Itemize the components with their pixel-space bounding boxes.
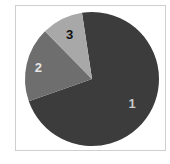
pie-slices	[25, 12, 159, 146]
pie-label-1: 1	[129, 96, 136, 111]
pie-label-3: 3	[66, 27, 73, 42]
pie-label-2: 2	[35, 60, 42, 75]
pie-chart: 123	[0, 0, 170, 164]
chart-canvas: 123	[0, 0, 170, 164]
